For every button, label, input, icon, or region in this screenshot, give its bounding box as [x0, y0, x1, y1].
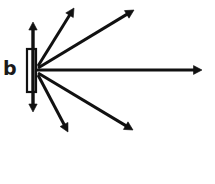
figure-panel-b: b	[0, 0, 215, 184]
panel-label-b: b	[3, 57, 17, 79]
radiation-pattern-diagram	[0, 0, 215, 184]
